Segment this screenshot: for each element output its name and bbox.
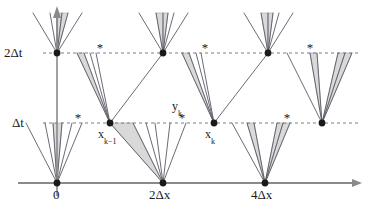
asterisk-2dt-3: * bbox=[307, 40, 314, 55]
asterisk-dt-1: * bbox=[75, 110, 82, 125]
fan-xk-minus-1-up-ray-2 bbox=[90, 53, 110, 123]
node-label-x-k-subscript: k bbox=[211, 137, 215, 146]
asterisk-2dt-2: * bbox=[202, 40, 209, 55]
node-label-y-k-subscript: k bbox=[178, 109, 182, 118]
node-xk-minus-1 bbox=[107, 120, 114, 127]
fan-xk-up-ray-3 bbox=[201, 53, 214, 123]
y-tick-label-delta-t: Δt bbox=[12, 116, 24, 129]
node-4dx bbox=[262, 180, 269, 187]
node-2dt-1 bbox=[160, 50, 167, 57]
fan-xk-up-ray-4 bbox=[214, 53, 268, 123]
node-dt-right bbox=[319, 120, 326, 127]
y-axis-arrowhead bbox=[53, 6, 61, 18]
node-label-x-k-minus-1: xk−1 bbox=[98, 128, 117, 143]
fan-4dx-up-ray-0 bbox=[232, 123, 265, 183]
node-2dx bbox=[160, 180, 167, 187]
node-2dt-0 bbox=[54, 50, 61, 57]
figure-canvas: ****** bbox=[0, 0, 377, 214]
fan-xk-up-ray-1 bbox=[189, 53, 214, 123]
fan-xk-up-ray-0 bbox=[182, 53, 214, 123]
fan-xk-minus-1-up-ray-0 bbox=[77, 53, 110, 123]
characteristics-lattice-figure: ****** 2Δt Δt 0 2Δx 4Δx xk−1 yk xk bbox=[0, 0, 377, 214]
fan-origin-up-ray-0 bbox=[26, 123, 57, 183]
fan-xk-minus-1-up-ray-1 bbox=[84, 53, 110, 123]
node-xk bbox=[211, 120, 218, 127]
node-label-x-k-minus-1-subscript: k−1 bbox=[104, 137, 117, 146]
node-label-x-k: xk bbox=[205, 128, 215, 143]
node-origin bbox=[54, 180, 61, 187]
node-label-y-k: yk bbox=[172, 100, 182, 115]
fan-xk-minus-1-up-ray-3 bbox=[96, 53, 110, 123]
fan-dt-right-up-ray-4 bbox=[322, 53, 345, 123]
x-tick-label-origin: 0 bbox=[53, 188, 60, 201]
node-2dt-2 bbox=[265, 50, 272, 57]
asterisk-2dt-1: * bbox=[97, 40, 104, 55]
x-tick-label-four-delta-x: 4Δx bbox=[251, 188, 272, 201]
x-axis-arrowhead bbox=[352, 179, 362, 187]
fan-xk-minus-1-up-ray-4 bbox=[110, 53, 163, 123]
y-tick-label-two-delta-t: 2Δt bbox=[4, 46, 22, 59]
fan-4dx-up-ray-4 bbox=[265, 123, 283, 183]
asterisk-dt-3: * bbox=[284, 110, 291, 125]
x-tick-label-two-delta-x: 2Δx bbox=[149, 188, 170, 201]
